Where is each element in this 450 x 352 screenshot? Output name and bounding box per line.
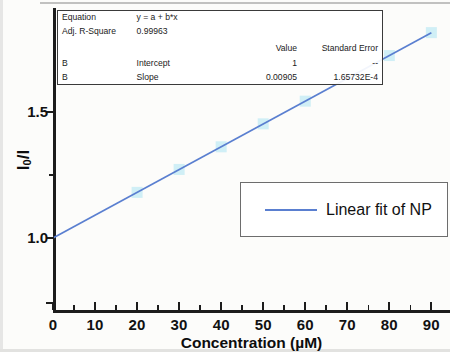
x-tick-label-0: 0 bbox=[49, 316, 58, 333]
stats-intercept-value: 1 bbox=[220, 56, 301, 70]
table-row: B Intercept 1 -- bbox=[58, 56, 382, 70]
stats-r2-value: 0.99963 bbox=[133, 25, 382, 39]
chart-legend: Linear fit of NP bbox=[240, 182, 448, 237]
x-minor-tick bbox=[115, 305, 117, 310]
stats-intercept-standard-error: -- bbox=[301, 56, 382, 70]
x-tick-label-50: 50 bbox=[255, 316, 272, 333]
x-tick-50 bbox=[262, 302, 264, 310]
legend-entry-label: Linear fit of NP bbox=[326, 201, 432, 219]
stats-equation-label: Equation bbox=[58, 11, 133, 25]
x-tick-70 bbox=[346, 302, 348, 310]
legend-entry-linear-fit: Linear fit of NP bbox=[241, 201, 432, 219]
x-tick-10 bbox=[94, 302, 96, 310]
data-point-marker bbox=[426, 27, 437, 38]
stats-slope-value: 0.00905 bbox=[220, 70, 301, 84]
y-axis-title-tail: /I bbox=[14, 150, 33, 159]
x-tick-label-70: 70 bbox=[339, 316, 356, 333]
stats-slope-label: Slope bbox=[133, 70, 220, 84]
stats-header-value: Value bbox=[220, 39, 301, 57]
stats-r2-label: Adj. R-Square bbox=[58, 25, 133, 39]
x-minor-tick bbox=[73, 305, 75, 310]
y-tick-label-1.5: 1.5 bbox=[0, 103, 48, 120]
fit-statistics-table: Equation y = a + b*x Adj. R-Square 0.999… bbox=[58, 11, 382, 84]
x-tick-90 bbox=[430, 302, 432, 310]
table-row: B Slope 0.00905 1.65732E-4 bbox=[58, 70, 382, 84]
x-tick-label-90: 90 bbox=[423, 316, 440, 333]
stern-volmer-chart-figure: 01020304050607080901.01.5 Concentration … bbox=[0, 0, 450, 352]
table-row: Equation y = a + b*x bbox=[58, 11, 382, 25]
x-tick-label-10: 10 bbox=[86, 316, 103, 333]
x-minor-tick bbox=[199, 305, 201, 310]
x-axis-title: Concentration (µM) bbox=[53, 334, 450, 352]
y-axis-title-main: I bbox=[14, 165, 33, 170]
stats-intercept-series: B bbox=[58, 56, 133, 70]
x-tick-60 bbox=[304, 302, 306, 310]
stats-slope-series: B bbox=[58, 70, 133, 84]
y-axis-origin-tick bbox=[46, 302, 54, 304]
y-axis-title-sub: 0 bbox=[21, 159, 33, 165]
x-minor-tick bbox=[241, 305, 243, 310]
stats-intercept-label: Intercept bbox=[133, 56, 220, 70]
x-tick-label-80: 80 bbox=[381, 316, 398, 333]
y-tick-label-1.0: 1.0 bbox=[0, 229, 48, 246]
fit-statistics-box: Equation y = a + b*x Adj. R-Square 0.999… bbox=[57, 10, 383, 85]
legend-line-swatch-icon bbox=[265, 209, 317, 211]
stats-header-blank1 bbox=[58, 39, 133, 57]
stats-equation-value: y = a + b*x bbox=[133, 11, 382, 25]
y-axis-title: I0/I bbox=[14, 130, 34, 190]
stats-header-standard-error: Standard Error bbox=[301, 39, 382, 57]
table-row: Adj. R-Square 0.99963 bbox=[58, 25, 382, 39]
x-tick-80 bbox=[388, 302, 390, 310]
x-tick-label-20: 20 bbox=[129, 316, 146, 333]
x-tick-40 bbox=[220, 302, 222, 310]
x-tick-label-40: 40 bbox=[213, 316, 230, 333]
x-tick-20 bbox=[136, 302, 138, 310]
x-minor-tick bbox=[325, 305, 327, 310]
x-minor-tick bbox=[368, 305, 370, 310]
y-minor-tick bbox=[49, 174, 54, 176]
x-minor-tick bbox=[410, 305, 412, 310]
table-header-row: Value Standard Error bbox=[58, 39, 382, 57]
x-minor-tick bbox=[283, 305, 285, 310]
stats-slope-standard-error: 1.65732E-4 bbox=[301, 70, 382, 84]
x-tick-label-60: 60 bbox=[297, 316, 314, 333]
stats-header-blank2 bbox=[133, 39, 220, 57]
x-tick-label-30: 30 bbox=[171, 316, 188, 333]
x-tick-30 bbox=[178, 302, 180, 310]
x-minor-tick bbox=[157, 305, 159, 310]
